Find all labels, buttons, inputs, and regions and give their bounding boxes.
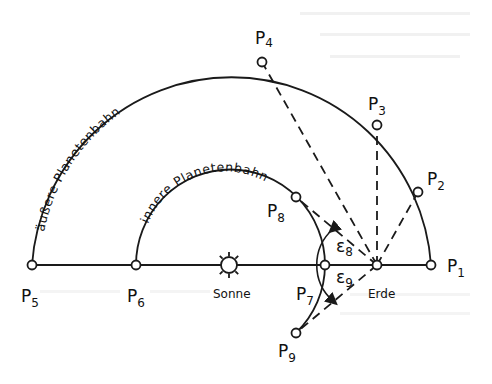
sun-label: Sonne [213, 287, 251, 301]
outer-orbit-label: äußere Planetenbahn [32, 103, 123, 232]
label-p4: P4 [255, 28, 273, 50]
sun-icon [216, 252, 242, 278]
point-p7 [321, 261, 330, 270]
point-earth [373, 261, 382, 270]
point-p1 [427, 261, 436, 270]
label-p7: P7 [296, 284, 314, 308]
point-p9 [292, 329, 301, 338]
point-p8 [292, 193, 301, 202]
bleed-through-texture [40, 12, 470, 315]
point-p2 [414, 188, 423, 197]
label-p9: P9 [278, 341, 296, 365]
point-p5 [28, 261, 37, 270]
point-p4 [258, 58, 267, 67]
earth-label: Erde [368, 287, 395, 301]
label-p2: P2 [427, 169, 445, 193]
label-p1: P1 [447, 256, 465, 280]
point-p3 [373, 121, 382, 130]
point-p6 [132, 261, 141, 270]
label-p8: P8 [267, 201, 285, 225]
label-p6: P6 [127, 286, 145, 310]
label-epsilon-8: ε8 [336, 236, 353, 259]
inner-orbit-label: innere Planetenbahn [137, 159, 271, 225]
label-p5: P5 [21, 286, 39, 310]
planet-orbits-diagram: äußere Planetenbahn innere Planetenbahn … [0, 0, 492, 384]
label-p3: P3 [368, 94, 386, 118]
label-epsilon-9: ε9 [336, 267, 353, 290]
